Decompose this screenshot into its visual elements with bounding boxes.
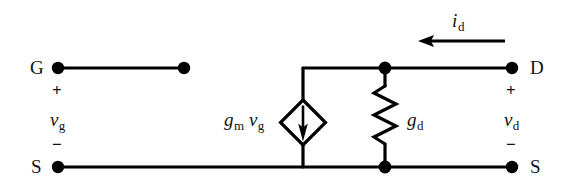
gate-voltage-label: vg bbox=[50, 110, 65, 132]
circuit-diagram: G D S S + vg − + vd − id gmvg gd bbox=[0, 0, 570, 193]
source-left-terminal-node bbox=[52, 161, 64, 173]
transconductance-subscript: m bbox=[234, 118, 245, 133]
drain-current-subscript: d bbox=[457, 19, 464, 34]
dependent-source-label: gmvg bbox=[224, 110, 264, 132]
source-right-terminal-node bbox=[506, 161, 518, 173]
conductance-bottom-junction-node bbox=[379, 161, 392, 174]
output-conductance-symbol: g bbox=[407, 109, 417, 130]
gate-terminal-node bbox=[52, 62, 64, 74]
gate-branch-open-node bbox=[178, 62, 190, 74]
source-right-terminal-label: S bbox=[530, 157, 541, 176]
controlling-voltage-subscript: g bbox=[257, 118, 264, 133]
drain-voltage-plus-sign: + bbox=[506, 82, 516, 99]
circuit-schematic-canvas bbox=[0, 0, 570, 193]
drain-voltage-minus-sign: − bbox=[506, 136, 516, 153]
drain-voltage-subscript: d bbox=[512, 118, 519, 133]
gate-voltage-plus-sign: + bbox=[52, 82, 62, 99]
drain-current-label: id bbox=[452, 11, 464, 33]
drain-terminal-label: D bbox=[530, 58, 544, 77]
drain-terminal-node bbox=[506, 62, 518, 74]
conductance-top-junction-node bbox=[379, 62, 392, 75]
gate-terminal-label: G bbox=[30, 58, 44, 77]
source-left-terminal-label: S bbox=[31, 157, 42, 176]
gate-voltage-minus-sign: − bbox=[52, 136, 62, 153]
gate-voltage-subscript: g bbox=[58, 118, 65, 133]
transconductance-symbol: g bbox=[224, 109, 234, 130]
drain-voltage-label: vd bbox=[504, 110, 519, 132]
conductance-zigzag bbox=[374, 86, 396, 144]
output-conductance-label: gd bbox=[407, 110, 423, 132]
output-conductance-subscript: d bbox=[417, 118, 424, 133]
